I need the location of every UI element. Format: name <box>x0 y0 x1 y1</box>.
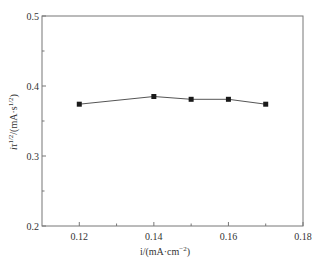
x-axis-label-main: i/(mA·cm <box>140 246 180 258</box>
x-tick-label: 0.18 <box>294 231 312 242</box>
x-tick-label: 0.14 <box>145 231 163 242</box>
x-axis-label: i/(mA·cm−2) <box>140 245 190 258</box>
y-axis-tick-labels: 0.20.30.40.5 <box>27 11 40 232</box>
y-tick-label: 0.5 <box>27 11 40 22</box>
y-tick-label: 0.2 <box>27 221 40 232</box>
y-axis-label-c: ) <box>8 94 20 97</box>
y-axis-ticks <box>42 16 46 226</box>
data-point-square-marker <box>77 102 82 107</box>
x-tick-label: 0.16 <box>220 231 238 242</box>
data-series <box>77 94 268 107</box>
data-point-square-marker <box>189 97 194 102</box>
x-axis-label-tail: ) <box>187 246 190 258</box>
data-point-square-marker <box>226 97 231 102</box>
data-point-square-marker <box>263 102 268 107</box>
x-tick-label: 0.12 <box>71 231 89 242</box>
y-tick-label: 0.4 <box>27 81 40 92</box>
y-axis-label: iτ1/2/(mA·s1/2) <box>7 94 20 150</box>
chart: 0.120.140.160.18 0.20.30.40.5 i/(mA·cm−2… <box>0 0 327 266</box>
x-axis-ticks <box>79 222 303 226</box>
y-tick-label: 0.3 <box>27 151 40 162</box>
plot-area <box>42 16 303 226</box>
data-point-square-marker <box>151 94 156 99</box>
series-line <box>79 97 265 105</box>
y-axis-label-b: /(mA·s <box>8 106 20 134</box>
x-axis-tick-labels: 0.120.140.160.18 <box>71 231 312 242</box>
